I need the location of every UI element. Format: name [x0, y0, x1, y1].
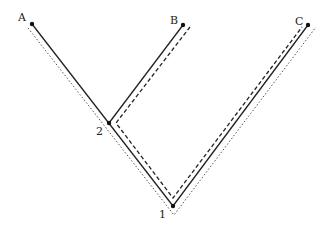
taxon-a-dot — [30, 22, 34, 26]
tree-diagram: A B C 2 1 — [0, 0, 329, 225]
taxon-c-dot — [306, 23, 310, 27]
taxon-b-label: B — [170, 14, 178, 27]
node-1-label: 1 — [159, 208, 166, 221]
branch-node1-to-c — [173, 25, 308, 206]
taxon-b-dot — [181, 23, 185, 27]
branch-a-to-node1 — [32, 24, 173, 206]
node-2-label: 2 — [96, 125, 103, 138]
node-1-dot — [171, 204, 175, 208]
taxon-a-label: A — [17, 11, 27, 24]
dotted-path-a-to-c — [28, 27, 316, 215]
taxon-c-label: C — [295, 15, 303, 28]
dashed-path-b-to-c — [116, 27, 302, 198]
node-2-dot — [107, 121, 111, 125]
branch-node2-to-b — [109, 25, 183, 123]
